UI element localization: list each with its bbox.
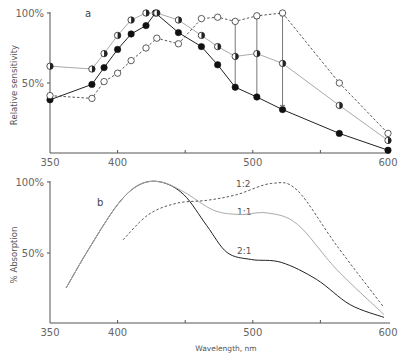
data-point-filled (128, 31, 134, 37)
data-point-filled (89, 81, 95, 87)
x-tick-500-bottom: 500 (243, 327, 262, 338)
data-point-open (279, 10, 285, 16)
panel-a: 100% 50% 350 400 500 600 Relative sensit… (9, 8, 398, 168)
data-point-filled (214, 62, 220, 68)
plot-area-a (47, 10, 391, 154)
curve-label-2-1: 2:1 (237, 246, 251, 256)
y-tick-100-top: 100% (15, 8, 44, 19)
x-tick-400-top: 400 (108, 157, 127, 168)
x-axis-label: Wavelength, nm (195, 344, 256, 353)
y-tick-50-top: 50% (22, 78, 44, 89)
x-tick-600-top: 600 (378, 157, 397, 168)
data-point-filled (279, 106, 285, 112)
series-line-1-2 (123, 183, 384, 308)
data-point-half (89, 66, 95, 72)
data-point-filled (232, 84, 238, 90)
data-point-half (128, 17, 134, 23)
data-point-open (47, 92, 53, 98)
data-point-half (154, 10, 160, 16)
data-point-filled (385, 147, 391, 153)
data-point-open (385, 130, 391, 136)
data-point-open (214, 14, 220, 20)
data-point-open (143, 45, 149, 51)
y-tick-50-bottom: 50% (22, 248, 44, 259)
panel-label-b: b (97, 197, 103, 208)
panel-b: 100% 50% 350 400 500 600 % Absorption Wa… (9, 177, 398, 353)
curve-label-1-2: 1:2 (236, 179, 250, 189)
y-tick-100-bottom: 100% (15, 177, 44, 188)
data-point-open (89, 95, 95, 101)
data-point-open (101, 78, 107, 84)
data-point-open (232, 18, 238, 24)
data-point-open (114, 70, 120, 76)
data-point-filled (101, 64, 107, 70)
y-axis-label-bottom: % Absorption (9, 227, 19, 284)
plot-area-b (66, 181, 384, 317)
x-tick-400-bottom: 400 (108, 327, 127, 338)
data-point-half (214, 43, 220, 49)
data-point-half (336, 102, 342, 108)
data-point-half (101, 50, 107, 56)
x-tick-350-top: 350 (40, 157, 59, 168)
data-point-half (385, 137, 391, 143)
curve-label-1-1: 1:1 (237, 207, 251, 217)
data-point-half (279, 60, 285, 66)
data-point-open (198, 15, 204, 21)
data-point-open (154, 35, 160, 41)
data-point-half (232, 53, 238, 59)
panel-label-a: a (85, 8, 91, 19)
data-point-open (128, 57, 134, 63)
data-point-open (336, 80, 342, 86)
data-point-filled (336, 130, 342, 136)
data-point-half (143, 10, 149, 16)
y-axis-label-top: Relative sensitivity (9, 45, 19, 125)
data-point-open (175, 41, 181, 47)
figure: 100% 50% 350 400 500 600 Relative sensit… (0, 0, 410, 357)
series-line-half-filled-circles (50, 13, 388, 140)
data-point-filled (114, 46, 120, 52)
data-point-filled (254, 94, 260, 100)
x-tick-500-top: 500 (243, 157, 262, 168)
data-point-filled (175, 29, 181, 35)
x-tick-600-bottom: 600 (378, 327, 397, 338)
data-point-half (114, 32, 120, 38)
data-point-half (175, 17, 181, 23)
series-line-open-circles (50, 13, 388, 133)
data-point-half (254, 50, 260, 56)
data-point-open (254, 13, 260, 19)
data-point-filled (143, 22, 149, 28)
data-point-filled (198, 43, 204, 49)
x-tick-350-bottom: 350 (40, 327, 59, 338)
data-point-half (47, 63, 53, 69)
data-point-half (198, 32, 204, 38)
series-line-2-1 (66, 181, 384, 317)
